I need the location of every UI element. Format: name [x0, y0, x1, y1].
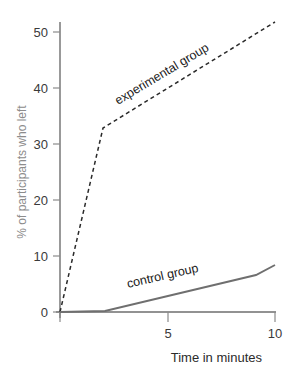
- y-tick-label-10: 10: [34, 249, 48, 264]
- y-axis-title: % of participants who left: [15, 105, 29, 239]
- series-label-control-group: control group: [126, 261, 200, 291]
- line-chart: 50 40 30 20 10 0 5 10 Time in minutes % …: [0, 0, 297, 372]
- series-label-experimental-group: experimental group: [112, 40, 211, 107]
- x-axis-title: Time in minutes: [171, 350, 263, 365]
- x-tick-label-10: 10: [268, 326, 282, 341]
- y-tick-label-50: 50: [34, 25, 48, 40]
- y-tick-label-40: 40: [34, 81, 48, 96]
- x-tick-label-5: 5: [164, 326, 171, 341]
- y-tick-label-0: 0: [41, 305, 48, 320]
- chart-canvas: 50 40 30 20 10 0 5 10 Time in minutes % …: [0, 0, 297, 372]
- y-tick-label-30: 30: [34, 137, 48, 152]
- y-tick-label-20: 20: [34, 193, 48, 208]
